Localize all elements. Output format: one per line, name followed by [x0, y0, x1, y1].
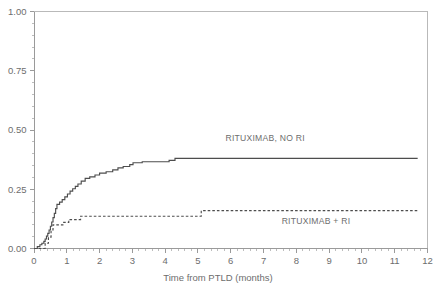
x-tick-label: 7: [261, 255, 266, 266]
y-axis-tick-labels: 0.000.250.500.751.00: [8, 6, 27, 254]
x-tick-label: 2: [97, 255, 102, 266]
y-tick-label: 0.75: [8, 65, 27, 76]
y-tick-label: 0.00: [8, 243, 27, 254]
x-tick-label: 12: [422, 255, 433, 266]
series-curve-rituximab-no-ri: [34, 158, 418, 248]
x-axis-title: Time from PTLD (months): [163, 272, 272, 283]
x-tick-label: 4: [163, 255, 168, 266]
axis-lines: [34, 12, 428, 249]
x-tick-label: 10: [357, 255, 368, 266]
x-tick-label: 9: [326, 255, 331, 266]
x-tick-label: 6: [228, 255, 233, 266]
chart-figure: 0.000.250.500.751.00 0123456789101112 RI…: [0, 0, 436, 290]
x-tick-label: 0: [31, 255, 36, 266]
x-tick-label: 8: [294, 255, 299, 266]
x-tick-label: 3: [130, 255, 135, 266]
y-tick-label: 0.25: [8, 184, 27, 195]
y-tick-label: 1.00: [8, 6, 27, 17]
x-tick-label: 5: [195, 255, 200, 266]
data-curves: [34, 158, 418, 248]
y-tick-label: 0.50: [8, 124, 27, 135]
x-tick-label: 1: [64, 255, 69, 266]
series-curve-rituximab-ri: [34, 211, 418, 249]
series-annotations: RITUXIMAB, NO RIRITUXIMAB + RI: [225, 133, 350, 226]
x-axis-tick-labels: 0123456789101112: [31, 255, 432, 266]
series-label-rituximab-no-ri: RITUXIMAB, NO RI: [225, 133, 304, 143]
x-tick-label: 11: [390, 255, 400, 266]
series-label-rituximab-ri: RITUXIMAB + RI: [282, 216, 351, 226]
kaplan-meier-plot: 0.000.250.500.751.00 0123456789101112 RI…: [0, 0, 436, 290]
